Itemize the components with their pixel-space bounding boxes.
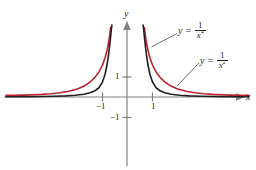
annotation-leader-lines (152, 34, 200, 87)
y-axis (123, 21, 131, 166)
plot-area (0, 0, 256, 170)
leader-line-x4 (152, 34, 178, 48)
leader-line-x2 (177, 63, 199, 86)
figure-canvas: y x −1 1 1 −1 y = 1 x4 y = 1 x2 (0, 0, 256, 170)
